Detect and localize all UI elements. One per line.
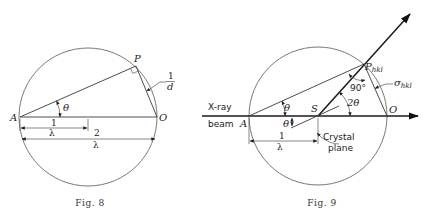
label-dim-num: 1 [279, 131, 285, 141]
label-a: A [239, 118, 247, 129]
figure-caption: Fig. 9 [307, 198, 336, 208]
theta-arc [57, 101, 60, 117]
label-dim-den: λ [277, 142, 283, 152]
label-sigma: σhkl [394, 77, 412, 90]
label-chord-den: d [167, 81, 173, 92]
label-chord-num: 1 [168, 71, 174, 81]
label-dim1-num: 1 [51, 118, 57, 128]
sigma-leader-arrow [375, 87, 378, 89]
label-plane: plane [328, 143, 353, 153]
label-o: O [389, 104, 397, 115]
label-dim1-den: λ [49, 128, 55, 138]
figure-8: A P O θ 1 d 1 λ 2 λ Fig. 8 [9, 48, 175, 208]
label-theta-upper: θ [284, 102, 290, 113]
chord-leader [150, 82, 166, 89]
figure-9: X-ray beam A S O Phkl θ θ 2θ 90° σhkl Cr… [202, 14, 418, 208]
label-dim2-num: 2 [94, 128, 100, 138]
figure-caption: Fig. 8 [75, 198, 104, 208]
label-theta: θ [63, 102, 69, 113]
label-beam: beam [208, 119, 234, 129]
label-p: P [133, 53, 141, 64]
label-ninety: 90° [350, 83, 366, 93]
diagram-canvas: A P O θ 1 d 1 λ 2 λ Fig. 8 [0, 0, 429, 218]
line-a-p [20, 66, 136, 117]
chord-leader-arrow [147, 89, 151, 91]
line-a-p [249, 64, 364, 116]
label-dim2-den: λ [93, 140, 99, 150]
label-xray: X-ray [208, 102, 232, 112]
label-s: S [311, 103, 318, 114]
crystal-plane-leader-arrow [317, 133, 321, 137]
label-two-theta: 2θ [346, 97, 359, 108]
label-crystal: Crystal [323, 132, 355, 142]
label-o: O [159, 112, 167, 123]
label-a: A [9, 112, 17, 123]
label-theta-lower: θ [283, 118, 289, 129]
line-p-o [136, 66, 157, 117]
label-p: Phkl [364, 61, 383, 74]
